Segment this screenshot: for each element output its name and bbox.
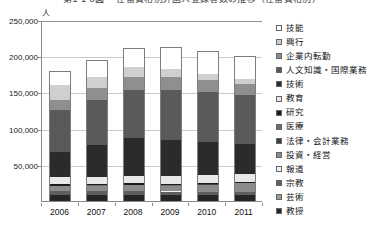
legend-swatch-icon (276, 138, 282, 144)
x-axis-tick-labels: 200620072008200920102011 (41, 203, 262, 221)
legend-swatch-icon (276, 96, 282, 102)
legend-item[interactable]: 技術 (276, 77, 384, 91)
legend-item-label: 研究 (286, 108, 304, 117)
bar-segment[interactable] (124, 77, 144, 90)
bar-segment[interactable] (161, 195, 181, 201)
x-axis-tick-label: 2011 (234, 207, 252, 217)
bar-stack[interactable] (160, 47, 182, 201)
legend-swatch-icon (276, 25, 282, 31)
bar-segment[interactable] (50, 85, 70, 100)
x-axis-tick-mark (225, 203, 226, 206)
bar-segment[interactable] (87, 77, 107, 88)
bar-stack[interactable] (86, 60, 108, 201)
legend-swatch-icon (276, 124, 282, 130)
y-axis-tick-label: 200,000 (9, 53, 38, 62)
legend-item[interactable]: 技能 (276, 21, 384, 35)
legend-swatch-icon (276, 194, 282, 200)
bar-segment[interactable] (87, 195, 107, 201)
legend-item[interactable]: 医療 (276, 120, 384, 134)
legend-swatch-icon (276, 208, 282, 214)
bar-segment[interactable] (198, 142, 218, 176)
legend-item[interactable]: 研究 (276, 106, 384, 120)
bar-segment[interactable] (198, 185, 218, 192)
bar-segment[interactable] (235, 57, 255, 79)
bar-segment[interactable] (161, 48, 181, 69)
x-axis-tick-mark (262, 203, 263, 206)
x-axis-tick-label: 2008 (124, 207, 143, 217)
bar-segment[interactable] (124, 138, 144, 176)
bar-segment[interactable] (87, 61, 107, 77)
bar-segment[interactable] (124, 67, 144, 76)
bar-segment[interactable] (87, 88, 107, 100)
x-axis-tick-mark (115, 203, 116, 206)
legend-item[interactable]: 企業内転勤 (276, 49, 384, 63)
legend-item[interactable]: 宗教 (276, 176, 384, 190)
x-axis-tick-label: 2007 (87, 207, 106, 217)
legend-swatch-icon (276, 53, 282, 59)
legend-swatch-icon (276, 110, 282, 116)
legend-item-label: 教育 (286, 94, 304, 103)
bar-segment[interactable] (198, 80, 218, 92)
legend-swatch-icon (276, 152, 282, 158)
legend-item-label: 芸術 (286, 193, 304, 202)
bar-stack[interactable] (234, 56, 256, 201)
bar-segment[interactable] (235, 174, 255, 181)
legend-item[interactable]: 投資・経営 (276, 148, 384, 162)
bar-segment[interactable] (124, 49, 144, 68)
bar-segment[interactable] (87, 177, 107, 184)
legend-item-label: 報道 (286, 165, 304, 174)
y-axis-tick-label: 250,000 (9, 17, 38, 26)
bar-series-container (42, 21, 262, 201)
bar-segment[interactable] (235, 95, 255, 144)
bar-segment[interactable] (50, 72, 70, 85)
bar-segment[interactable] (124, 176, 144, 183)
plot-area (41, 21, 262, 202)
legend-item-label: 宗教 (286, 179, 304, 188)
bar-segment[interactable] (235, 183, 255, 192)
bar-stack[interactable] (197, 51, 219, 201)
bar-segment[interactable] (50, 152, 70, 177)
bar-segment[interactable] (235, 144, 255, 175)
legend-item[interactable]: 報道 (276, 162, 384, 176)
x-axis-tick-label: 2010 (197, 207, 216, 217)
legend-item[interactable]: 教授 (276, 204, 384, 218)
legend-item-label: 技術 (286, 80, 304, 89)
bar-segment[interactable] (87, 145, 107, 177)
bar-segment[interactable] (87, 100, 107, 145)
bar-segment[interactable] (50, 195, 70, 201)
legend-item[interactable]: 興行 (276, 35, 384, 49)
bar-segment[interactable] (161, 69, 181, 77)
legend-item[interactable]: 人文知識・国際業務 (276, 63, 384, 77)
x-axis-tick-mark (152, 203, 153, 206)
legend-swatch-icon (276, 180, 282, 186)
legend-item[interactable]: 教育 (276, 91, 384, 105)
bar-segment[interactable] (161, 77, 181, 90)
legend-item-label: 法律・会計業務 (286, 137, 349, 146)
bar-segment[interactable] (235, 195, 255, 201)
bar-segment[interactable] (198, 175, 218, 182)
bar-segment[interactable] (198, 92, 218, 142)
bar-segment[interactable] (124, 90, 144, 139)
legend-swatch-icon (276, 67, 282, 73)
bar-segment[interactable] (50, 110, 70, 151)
y-axis-tick-label: 50,000 (14, 161, 38, 170)
bar-segment[interactable] (161, 140, 181, 177)
legend-item[interactable]: 法律・会計業務 (276, 134, 384, 148)
bar-segment[interactable] (161, 90, 181, 140)
bar-segment[interactable] (50, 177, 70, 184)
bar-segment[interactable] (235, 84, 255, 95)
bar-segment[interactable] (198, 74, 218, 81)
bar-segment[interactable] (161, 176, 181, 183)
bar-segment[interactable] (198, 52, 218, 74)
legend-item-label: 人文知識・国際業務 (286, 66, 367, 75)
legend-item-label: 医療 (286, 122, 304, 131)
bar-segment[interactable] (124, 195, 144, 201)
bar-segment[interactable] (198, 195, 218, 201)
bar-segment[interactable] (50, 100, 70, 110)
bar-stack[interactable] (49, 71, 71, 201)
y-axis-tick-label: 150,000 (9, 89, 38, 98)
legend-swatch-icon (276, 166, 282, 172)
bar-stack[interactable] (123, 48, 145, 201)
legend-item[interactable]: 芸術 (276, 190, 384, 204)
legend-swatch-icon (276, 39, 282, 45)
